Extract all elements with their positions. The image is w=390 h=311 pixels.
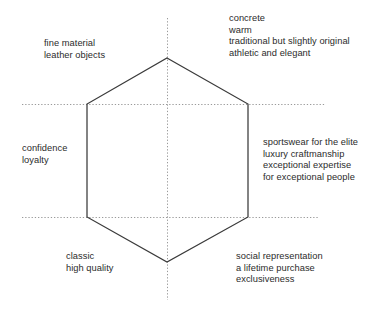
label-middle-right: sportswear for the elite luxury craftman…	[263, 137, 358, 183]
label-middle-left-line-1: confidence	[22, 143, 67, 155]
label-upper-left-line-1: fine material	[44, 38, 105, 50]
label-upper-left-line-2: leather objects	[44, 50, 105, 62]
label-upper-right: concrete warm traditional but slightly o…	[229, 13, 350, 59]
label-middle-right-line-1: sportswear for the elite	[263, 137, 358, 149]
label-middle-left-line-2: loyalty	[22, 155, 67, 167]
label-upper-right-line-1: concrete	[229, 13, 350, 25]
label-middle-right-line-3: exceptional expertise	[263, 160, 358, 172]
label-middle-right-line-4: for exceptional people	[263, 172, 358, 184]
label-lower-right-line-3: exclusiveness	[236, 274, 323, 286]
label-lower-right-line-2: a lifetime purchase	[236, 263, 323, 275]
label-lower-left-line-1: classic	[66, 251, 114, 263]
label-lower-right-line-1: social representation	[236, 251, 323, 263]
label-lower-left-line-2: high quality	[66, 263, 114, 275]
label-lower-right: social representation a lifetime purchas…	[236, 251, 323, 286]
diagram-canvas: fine material leather objects concrete w…	[0, 0, 390, 311]
label-upper-right-line-3: traditional but slightly original	[229, 36, 350, 48]
label-lower-left: classic high quality	[66, 251, 114, 274]
label-upper-right-line-4: athletic and elegant	[229, 48, 350, 60]
label-upper-left: fine material leather objects	[44, 38, 105, 61]
label-middle-left: confidence loyalty	[22, 143, 67, 166]
label-upper-right-line-2: warm	[229, 25, 350, 37]
label-middle-right-line-2: luxury craftmanship	[263, 149, 358, 161]
